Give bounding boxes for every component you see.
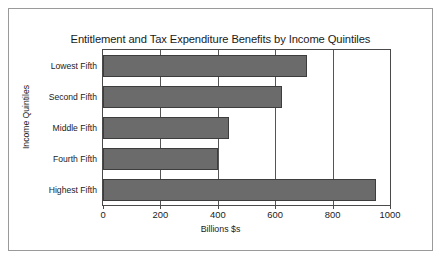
chart-title: Entitlement and Tax Expenditure Benefits… [9, 33, 432, 45]
y-axis-title: Income Quintiles [21, 67, 31, 167]
x-tick-label: 800 [325, 209, 341, 220]
bar [103, 179, 376, 201]
x-tick-label: 400 [210, 209, 226, 220]
y-tick-label: Highest Fifth [49, 179, 97, 201]
x-tick-label: 600 [267, 209, 283, 220]
y-tick-label: Lowest Fifth [51, 55, 97, 77]
bar [103, 148, 218, 170]
plot-area: Lowest FifthSecond FifthMiddle FifthFour… [102, 49, 391, 206]
y-tick-label: Fourth Fifth [53, 148, 97, 170]
y-tick-label: Second Fifth [49, 86, 97, 108]
bar [103, 117, 229, 139]
x-tick-label: 1000 [380, 209, 401, 220]
chart-figure: Entitlement and Tax Expenditure Benefits… [8, 8, 433, 251]
x-axis-title: Billions $s [9, 224, 432, 234]
y-tick-label: Middle Fifth [53, 117, 97, 139]
x-tick-label: 0 [100, 209, 105, 220]
x-tick-label: 200 [153, 209, 169, 220]
bar [103, 86, 282, 108]
bar [103, 55, 307, 77]
